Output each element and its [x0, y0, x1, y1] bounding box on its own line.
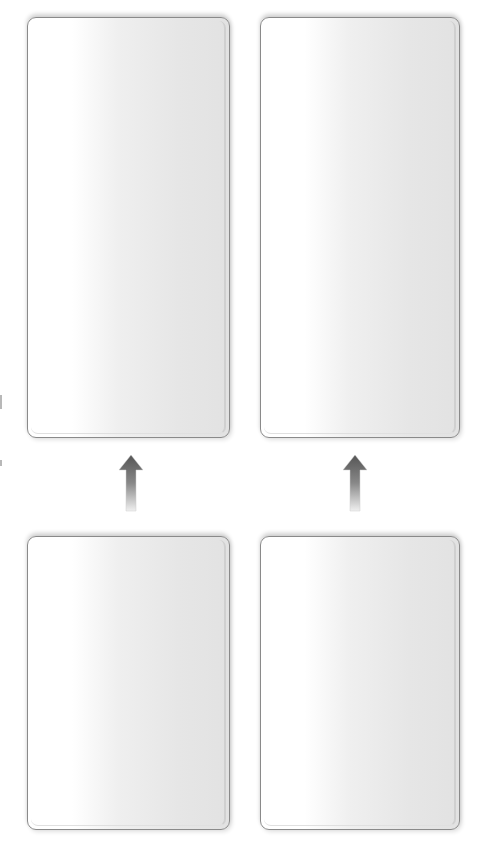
- edge-mark: [0, 395, 2, 409]
- panel-bottom-left: [27, 536, 230, 830]
- arrow-up-icon: [118, 454, 144, 512]
- panel-bottom-right: [260, 536, 460, 830]
- arrow-up-icon: [342, 454, 368, 512]
- panel-top-right: [260, 17, 460, 438]
- edge-mark: [0, 460, 2, 466]
- panel-top-left: [27, 17, 230, 438]
